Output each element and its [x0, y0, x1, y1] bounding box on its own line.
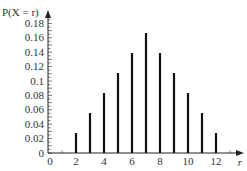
y-tick-label: 0.08: [25, 89, 45, 101]
x-axis-label: r: [238, 156, 243, 168]
y-axis-label: P(X = r): [2, 6, 39, 19]
y-tick-label: 0.04: [25, 118, 45, 130]
x-tick-label: 4: [101, 155, 107, 167]
y-tick-label: 0.18: [25, 17, 45, 29]
x-tick-label: 10: [183, 155, 195, 167]
y-axis-arrow-icon: [45, 10, 51, 18]
x-tick-label: 6: [129, 155, 135, 167]
y-tick-label: 0.06: [25, 103, 45, 115]
x-tick-label: 2: [73, 155, 79, 167]
x-tick-label: 12: [211, 155, 222, 167]
y-tick-label: 0.02: [25, 132, 44, 144]
x-tick-label: 8: [157, 155, 163, 167]
y-tick-label: 0.16: [25, 31, 45, 43]
y-tick-label: 0.1: [30, 75, 44, 87]
y-tick-label: 0.14: [25, 46, 45, 58]
y-tick-label: 0: [39, 147, 45, 159]
x-tick-label: 0: [47, 155, 53, 167]
y-tick-label: 0.12: [25, 60, 44, 72]
bar-chart: 00.020.040.060.080.10.120.140.160.180246…: [0, 0, 247, 171]
